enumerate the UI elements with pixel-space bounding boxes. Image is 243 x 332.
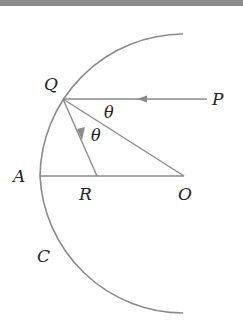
- label-theta-reflected: θ: [91, 126, 101, 145]
- label-c: C: [37, 246, 50, 266]
- label-q: Q: [44, 74, 58, 94]
- label-o: O: [178, 184, 192, 204]
- label-r: R: [78, 184, 92, 204]
- mirror-arc: [40, 34, 183, 313]
- label-p: P: [211, 89, 224, 109]
- label-a: A: [11, 166, 25, 186]
- label-theta-incident: θ: [104, 103, 114, 122]
- mirror-diagram: Q P A R O C θ θ: [0, 0, 243, 332]
- incident-ray-arrow-icon: [137, 96, 147, 103]
